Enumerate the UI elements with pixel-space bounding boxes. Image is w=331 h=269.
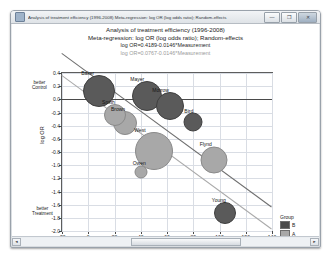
legend: Group B A bbox=[280, 214, 295, 238]
bubble-label-owen: Owen bbox=[133, 160, 146, 166]
window-titlebar[interactable]: Analysis of treatment efficiency (1996-2… bbox=[11, 11, 320, 24]
scroll-right-arrow[interactable]: ► bbox=[310, 238, 319, 246]
bubble-morrow[interactable] bbox=[156, 92, 184, 120]
maximize-button[interactable]: ❐ bbox=[281, 12, 297, 23]
plot-area: -200204060801001201400.40.20.0-0.2-0.4-0… bbox=[61, 72, 273, 232]
y-tick-label: -1.2 bbox=[51, 175, 60, 181]
bubble-bird[interactable] bbox=[184, 113, 203, 132]
bubble-flynd[interactable] bbox=[201, 146, 228, 173]
better-control-line2: Control bbox=[32, 85, 47, 90]
y-tick-label: -0.8 bbox=[51, 149, 60, 155]
gridline-horizontal bbox=[62, 231, 272, 232]
y-tick-label: -0.6 bbox=[51, 136, 60, 142]
bubble-label-mayer: Mayer bbox=[130, 76, 144, 82]
bubble-label-bird: Bird bbox=[184, 108, 193, 114]
close-button[interactable]: ✕ bbox=[298, 12, 317, 23]
bubble-label-flynd: Flynd bbox=[200, 141, 212, 147]
better-treatment-line2: Treatment bbox=[32, 211, 53, 216]
bubble-label-baker: Baker bbox=[81, 70, 94, 76]
y-tick-label: -0.2 bbox=[51, 110, 60, 116]
chart-window: Analysis of treatment efficiency (1996-2… bbox=[10, 10, 321, 248]
y-tick-label: -1.4 bbox=[51, 189, 60, 195]
bubble-label-brown: Brown bbox=[111, 106, 125, 112]
y-tick-label: -2.0 bbox=[51, 228, 60, 234]
y-tick-label: 0.2 bbox=[53, 83, 60, 89]
bubble-owen[interactable] bbox=[134, 165, 147, 178]
y-tick-label: 0.0 bbox=[53, 96, 60, 102]
gridline-horizontal bbox=[62, 218, 272, 219]
scrollbar-thumb[interactable] bbox=[131, 238, 241, 246]
y-tick-label: -1.0 bbox=[51, 162, 60, 168]
window-client-area: Analysis of treatment efficiency (1996-2… bbox=[12, 24, 319, 246]
bubble-label-smith: Smith bbox=[102, 99, 115, 105]
legend-swatch-B bbox=[280, 221, 290, 229]
regression-equation-primary: log OR=0.4189-0.0146*Measurement bbox=[12, 42, 319, 50]
regression-equation-secondary: log OR=0.0767-0.0146*Measurement bbox=[12, 50, 319, 58]
bubble-label-young: Young bbox=[212, 197, 226, 203]
y-tick-label: 0.4 bbox=[53, 70, 60, 76]
gridline-horizontal bbox=[62, 126, 272, 127]
chart-subtitle: Meta-regression: log OR (log odds ratio)… bbox=[12, 34, 319, 42]
y-tick-label: -1.8 bbox=[51, 215, 60, 221]
legend-label-B: B bbox=[292, 222, 295, 228]
y-tick-label: -1.6 bbox=[51, 202, 60, 208]
y-axis-label: log OR bbox=[39, 126, 45, 143]
horizontal-scrollbar[interactable]: ◄ ► bbox=[12, 236, 319, 246]
bubble-label-morrow: Morrow bbox=[152, 87, 169, 93]
gridline-horizontal bbox=[62, 178, 272, 179]
scroll-left-arrow[interactable]: ◄ bbox=[12, 238, 21, 246]
y-tick-label: -0.4 bbox=[51, 123, 60, 129]
bubble-label-west: West bbox=[134, 127, 145, 133]
chart-icon bbox=[15, 12, 25, 22]
legend-title: Group bbox=[280, 214, 295, 220]
gridline-horizontal bbox=[62, 165, 272, 166]
legend-item-B[interactable]: B bbox=[280, 221, 295, 229]
gridline-horizontal bbox=[62, 192, 272, 193]
chart-heading: Analysis of treatment efficiency (1996-2… bbox=[12, 26, 319, 57]
scrollbar-track[interactable] bbox=[21, 238, 310, 246]
minimize-button[interactable]: — bbox=[264, 12, 280, 23]
window-controls: — ❐ ✕ bbox=[264, 12, 317, 23]
chart-title: Analysis of treatment efficiency (1996-2… bbox=[12, 26, 319, 34]
bubble-young[interactable] bbox=[214, 202, 236, 224]
gridline-vertical bbox=[272, 73, 273, 231]
better-treatment-note: better Treatment bbox=[32, 206, 53, 216]
better-control-note: better Control bbox=[32, 80, 47, 90]
window-title: Analysis of treatment efficiency (1996-2… bbox=[28, 15, 264, 20]
